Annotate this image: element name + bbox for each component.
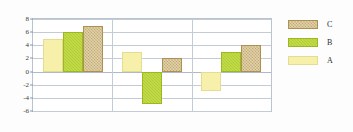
group-separator-1 [112,19,113,111]
bar-2004-series-C [241,45,261,71]
legend: CBA [288,16,348,70]
y-axis-label-6: 6 [26,28,30,36]
y-tick-mark--6 [30,111,33,112]
bar-2003-series-C [162,58,182,71]
bar-2004-series-B [221,52,241,72]
bar-2004-series-A [201,72,221,92]
gridline-8 [33,19,271,20]
y-axis-label-0: 0 [26,68,30,76]
y-tick-mark-4 [30,45,33,46]
legend-item-C[interactable]: C [288,16,348,32]
gridline--6 [33,111,271,112]
y-tick-mark-6 [30,32,33,33]
legend-label-C: C [327,20,332,29]
y-tick-mark-0 [30,71,33,72]
y-axis-label--2: -2 [23,81,29,89]
bar-2002-series-B [63,32,83,71]
y-axis-label--6: -6 [23,107,29,115]
y-axis-label--4: -4 [23,94,29,102]
bar-2002-series-C [83,26,103,72]
legend-item-A[interactable]: A [288,52,348,68]
group-separator-2 [192,19,193,111]
legend-swatch-A [288,56,318,65]
bar-2003-series-A [122,52,142,72]
legend-label-A: A [327,56,333,65]
y-tick-mark-8 [30,19,33,20]
bar-2003-series-B [142,72,162,105]
y-tick-mark--4 [30,97,33,98]
plot-area: 86420-2-4-6 200220032004 [32,18,272,112]
y-axis-label-4: 4 [26,41,30,49]
bar-chart-figure: 86420-2-4-6 200220032004 CBA [0,0,353,132]
legend-item-B[interactable]: B [288,34,348,50]
legend-swatch-C [288,20,318,29]
legend-label-B: B [327,38,332,47]
y-axis-label-8: 8 [26,15,30,23]
y-tick-mark--2 [30,84,33,85]
y-axis-label-2: 2 [26,54,30,62]
legend-swatch-B [288,38,318,47]
y-tick-mark-2 [30,58,33,59]
bar-2002-series-A [43,39,63,72]
